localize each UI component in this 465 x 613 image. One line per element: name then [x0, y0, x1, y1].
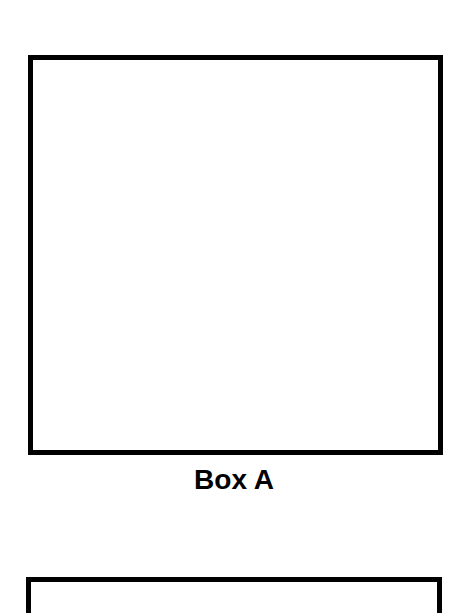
box-b	[26, 577, 442, 613]
box-a	[28, 55, 443, 455]
box-a-label: Box A	[0, 466, 465, 494]
